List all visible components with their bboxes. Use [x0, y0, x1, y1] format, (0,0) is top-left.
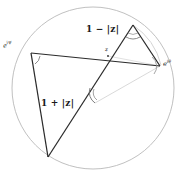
chord-bottom-to-apex — [48, 25, 133, 157]
angle-arc-left-vertex — [35, 56, 40, 64]
chord-apex-to-right — [133, 25, 160, 66]
label-right-vertex-exponent: iθ — [167, 59, 171, 64]
angle-arc-apex-outer — [126, 37, 140, 39]
geometry-figure: 1 − |z| 1 + |z| eiψ eiθ z — [0, 0, 187, 176]
label-interior-point-z: z — [105, 47, 108, 53]
label-top-length: 1 − |z| — [86, 25, 119, 34]
point-z-marker — [107, 55, 109, 57]
label-right-vertex: eiθ — [163, 60, 171, 68]
angle-arc-apex-inner — [128, 33, 138, 34]
label-left-vertex-exponent: iψ — [6, 39, 12, 45]
angle-arc-interior-outer — [89, 88, 95, 103]
label-bottom-length: 1 + |z| — [41, 99, 74, 108]
chord-left-to-right — [31, 53, 160, 66]
faint-chord-interior-right — [95, 66, 160, 103]
angle-arc-interior-inner — [93, 89, 97, 100]
